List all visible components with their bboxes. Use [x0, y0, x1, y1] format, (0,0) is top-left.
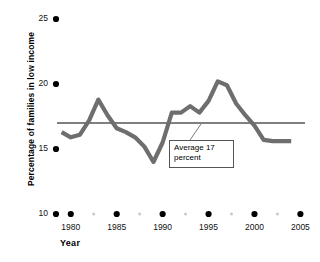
- x-minor-tick-dot: [276, 213, 279, 216]
- x-minor-tick-dot: [230, 213, 233, 216]
- callout-text-line-2: percent: [174, 153, 229, 163]
- x-tick-label: 2000: [237, 222, 271, 232]
- average-callout-box: Average 17 percent: [169, 140, 234, 168]
- x-minor-tick-dot: [138, 213, 141, 216]
- x-tick-label: 1995: [192, 222, 226, 232]
- x-tick-dot: [114, 211, 120, 217]
- callout-text-line-1: Average 17: [174, 143, 229, 153]
- x-minor-tick-dot: [92, 213, 95, 216]
- y-tick-dot: [53, 16, 59, 22]
- y-tick-label: 25: [30, 13, 48, 23]
- y-tick-label: 15: [30, 143, 48, 153]
- y-tick-label: 20: [30, 78, 48, 88]
- y-tick-dot: [53, 211, 59, 217]
- x-tick-label: 1990: [146, 222, 180, 232]
- y-tick-dots: [53, 16, 59, 217]
- callout-leader-line: [190, 124, 201, 140]
- x-tick-dot: [251, 211, 257, 217]
- x-tick-label: 1985: [100, 222, 134, 232]
- y-tick-dot: [53, 81, 59, 87]
- x-tick-dot: [205, 211, 211, 217]
- x-tick-label: 2005: [283, 222, 317, 232]
- x-tick-dot: [160, 211, 166, 217]
- x-tick-label: 1980: [54, 222, 88, 232]
- low-income-line-chart: Percentage of families in low income Yea…: [0, 0, 320, 262]
- y-tick-dot: [53, 146, 59, 152]
- x-minor-tick-dots: [92, 213, 279, 216]
- y-tick-label: 10: [30, 208, 48, 218]
- x-minor-tick-dot: [184, 213, 187, 216]
- x-tick-dot: [68, 211, 74, 217]
- x-tick-dot: [297, 211, 303, 217]
